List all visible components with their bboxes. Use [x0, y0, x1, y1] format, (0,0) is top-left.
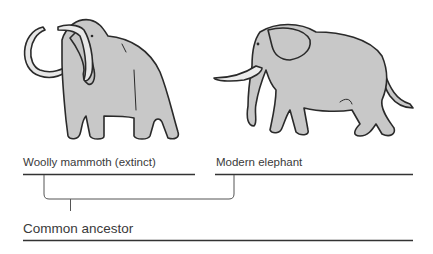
lineage-bracket: [44, 175, 234, 199]
ancestor-label: Common ancestor: [23, 221, 133, 236]
elephant-label: Modern elephant: [216, 156, 302, 168]
diagram-canvas: [0, 0, 433, 254]
woolly-mammoth-illustration: [25, 20, 179, 139]
mammoth-label: Woolly mammoth (extinct): [23, 156, 156, 168]
modern-elephant-illustration: [214, 25, 413, 137]
